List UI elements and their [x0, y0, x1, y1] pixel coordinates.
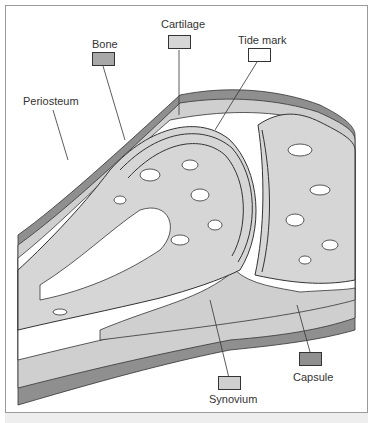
legend-box-synovium	[218, 376, 241, 390]
label-synovium: Synovium	[209, 393, 257, 405]
legend-box-tide-mark	[248, 48, 271, 62]
label-capsule: Capsule	[293, 371, 333, 383]
legend-box-cartilage	[168, 35, 191, 49]
footer-bar	[5, 412, 368, 423]
legend-box-capsule	[299, 352, 322, 366]
label-tide-mark: Tide mark	[238, 34, 287, 46]
label-periosteum: Periosteum	[23, 95, 79, 107]
label-bone: Bone	[92, 38, 118, 50]
label-cartilage: Cartilage	[161, 18, 205, 30]
legend-box-bone	[92, 52, 115, 66]
